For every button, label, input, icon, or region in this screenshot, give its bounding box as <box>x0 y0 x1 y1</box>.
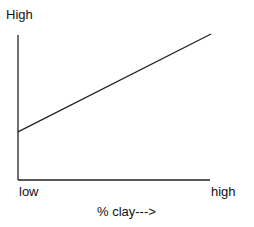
y-axis-label: High <box>6 7 33 22</box>
x-axis-title: % clay---> <box>97 204 156 219</box>
x-tick-low: low <box>19 184 39 199</box>
trend-line <box>18 34 211 132</box>
x-tick-high: high <box>211 184 236 199</box>
